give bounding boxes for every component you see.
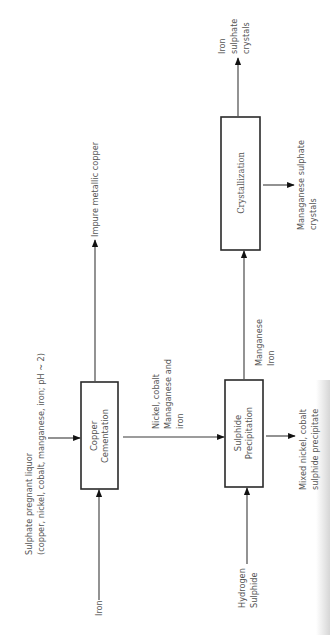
manganese-sulphate-label-2: crystals [308, 198, 318, 230]
nickel-cobalt-stream-label-3: iron [175, 413, 185, 429]
feed-label-2: (copper, nickel, cobalt, manganese, iron… [36, 353, 46, 555]
nickel-cobalt-stream-label-1: Nickel, cobalt [151, 373, 161, 429]
manganese-iron-stream-label-2: Iron [266, 350, 276, 366]
page-edge-shadow [316, 380, 330, 635]
iron-sulphate-label-2: sulphate [229, 19, 239, 54]
sulphide-precipitation-label-1: Sulphide [233, 415, 243, 451]
copper-cementation-label-2: Cementation [100, 409, 110, 463]
impure-copper-label: Impure metallic copper [90, 141, 100, 237]
sulphide-precipitation-label-2: Precipitation [244, 407, 254, 459]
process-flow-diagram: Copper Cementation Sulphide Precipitatio… [0, 0, 330, 635]
mixed-precipitate-label-1: Mixed nickel, cobalt [298, 408, 308, 490]
iron-sulphate-label-1: Iron [217, 38, 227, 54]
hydrogen-sulphide-label-2: Sulphide [249, 572, 259, 608]
feed-label-1: Sulphate pregnant liquor [24, 452, 34, 555]
hydrogen-sulphide-label-1: Hydrogen [237, 568, 247, 608]
iron-sulphate-label-3: crystals [241, 22, 251, 54]
crystallization-label: Crystallization [236, 152, 246, 214]
copper-cementation-label-1: Copper [89, 420, 99, 451]
nickel-cobalt-stream-label-2: Managanese and [163, 359, 173, 429]
manganese-iron-stream-label-1: Manganese [254, 319, 264, 366]
iron-input-label: Iron [94, 600, 104, 616]
manganese-sulphate-label-1: Managanese sulphate [296, 140, 306, 230]
